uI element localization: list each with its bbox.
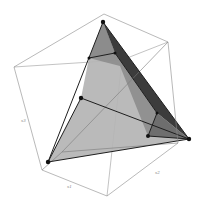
axis-label-bottom-right: x2 [155, 170, 160, 175]
vertex-right-inner [156, 112, 159, 115]
vertex-top [101, 20, 105, 24]
vertex-lower-inner [146, 134, 150, 138]
polytope-diagram: x3 x1 x2 [0, 0, 211, 216]
vertex-right [187, 137, 191, 141]
vertex-middle [79, 96, 83, 100]
axis-label-bottom-left: x1 [67, 184, 72, 189]
vertex-upper-inner [114, 52, 117, 55]
axis-label-left: x3 [21, 118, 26, 123]
vertex-bottom-left [46, 160, 50, 164]
vertex-upper-left [88, 57, 91, 60]
